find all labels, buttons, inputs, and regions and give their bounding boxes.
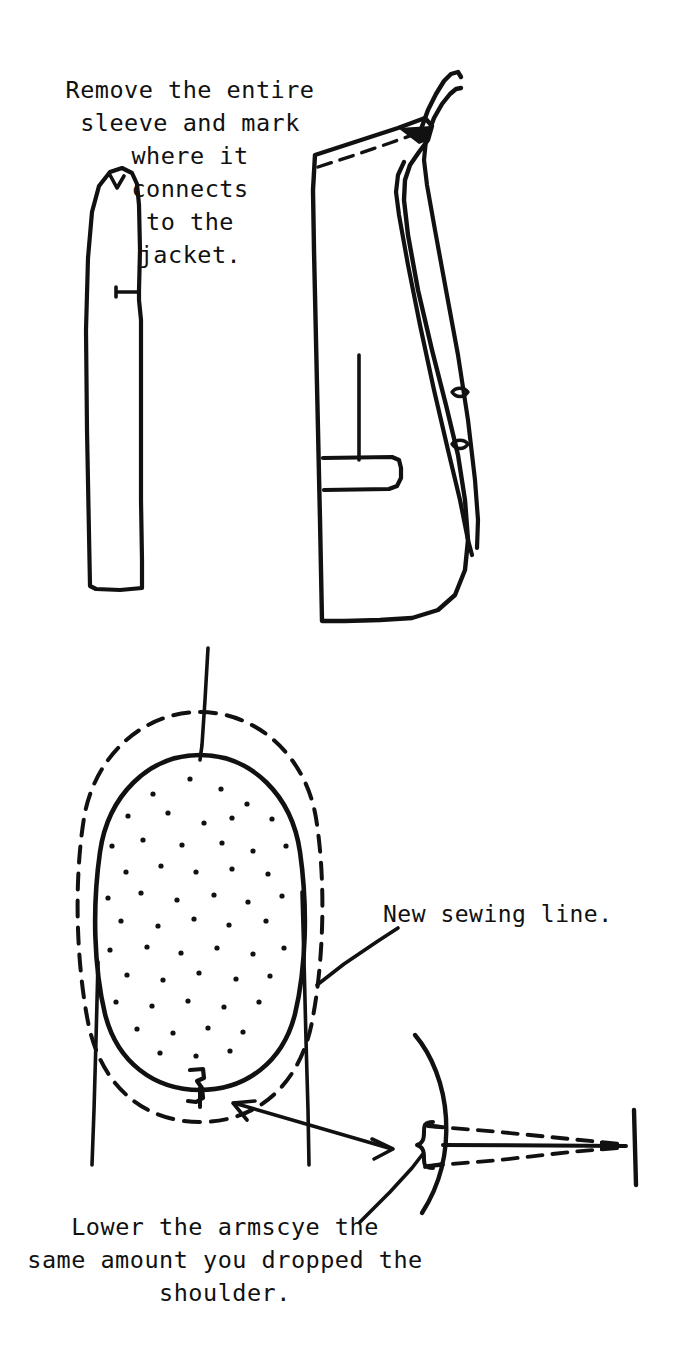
detail-left-tick-upper xyxy=(425,1125,441,1127)
double-arrow-head-left xyxy=(233,1101,255,1120)
detail-armscye-curve xyxy=(415,1035,446,1213)
detail-center-line xyxy=(443,1145,626,1146)
new-sewing-line-leader xyxy=(317,928,398,985)
jacket-buttonhole-upper xyxy=(452,388,468,396)
double-arrow-shaft xyxy=(234,1103,392,1149)
jacket-lapel-roll-line xyxy=(424,140,478,548)
armscye-figure xyxy=(78,648,636,1222)
jacket-pocket-flap xyxy=(323,457,401,490)
new-sewing-line-label: New sewing line. xyxy=(383,898,613,931)
jacket-lapel-notch xyxy=(398,126,432,144)
jacket-buttonhole-lower xyxy=(452,440,468,448)
detail-left-tick-lower xyxy=(425,1164,441,1167)
armscye-solid-oval xyxy=(95,755,305,1090)
drop-amount-brace xyxy=(417,1122,433,1168)
detail-center-arrowhead xyxy=(600,1141,622,1151)
detail-end-bar xyxy=(634,1110,636,1185)
armscye-stipple-dots xyxy=(105,776,288,1058)
armscye-dashed-oval xyxy=(78,712,323,1122)
underarm-notch-squiggle xyxy=(188,1069,204,1102)
jacket-collar-inner xyxy=(427,88,461,137)
illustration-page: Remove the entire sleeve and mark where … xyxy=(0,0,676,1345)
shoulder-seam-line xyxy=(200,648,208,760)
bottom-instruction-caption: Lower the armscye the same amount you dr… xyxy=(0,1211,450,1310)
double-arrow-head-right xyxy=(372,1139,393,1159)
side-seam-left xyxy=(92,962,98,1165)
top-instruction-caption: Remove the entire sleeve and mark where … xyxy=(0,74,380,272)
detail-dashed-taper-lower xyxy=(428,1148,620,1166)
jacket-front-inner-edge xyxy=(396,162,472,555)
side-seam-right xyxy=(302,892,309,1165)
jacket-collar-outer xyxy=(420,72,461,132)
detail-dashed-taper-upper xyxy=(428,1126,620,1144)
sleeve-notch-side-icon xyxy=(116,287,139,297)
